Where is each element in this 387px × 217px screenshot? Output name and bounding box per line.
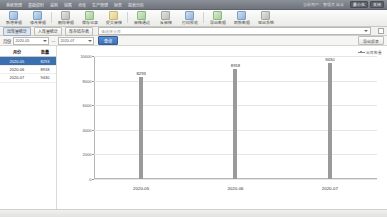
menu-item-4[interactable]: 仓库 xyxy=(75,2,89,8)
legend-label-0: 出库数量 xyxy=(366,50,382,55)
tab-outbound-stats[interactable]: 出库量统计 xyxy=(3,27,31,36)
toolbar-label-6: 反审核 xyxy=(160,21,172,25)
x-tick-label-2020-06: 2020-06 xyxy=(189,186,282,191)
cell-qty-1: 8918 xyxy=(34,65,56,73)
function-tab-row: 出库量统计 入库量统计 库存结存表 请选择仓库 xyxy=(0,27,387,36)
date-from-input[interactable]: 2020-05 xyxy=(13,37,49,45)
toolbar-button-save[interactable]: 保存记录 xyxy=(78,11,101,25)
gridline-0 xyxy=(94,179,377,180)
minimize-button[interactable]: 最小化 xyxy=(350,1,368,8)
toolbar-button-revoke[interactable]: 反审核 xyxy=(154,11,177,25)
date-range-separator: — xyxy=(51,38,56,43)
menu-item-2[interactable]: 采购 xyxy=(47,2,61,8)
print-icon xyxy=(185,11,194,20)
x-tick-label-2020-05: 2020-05 xyxy=(94,186,187,191)
bar-slot-2020-07: 9430 xyxy=(283,56,376,179)
save-icon xyxy=(85,11,94,20)
toolbar-button-print[interactable]: 打印预览 xyxy=(178,11,201,25)
toolbar-label-2: 删除单据 xyxy=(58,21,74,25)
chevron-down-icon-from xyxy=(43,40,47,42)
chevron-down-icon xyxy=(364,30,368,32)
toolbar-label-9: 刷新数据 xyxy=(234,21,250,25)
new-document-icon xyxy=(9,11,18,20)
revoke-icon xyxy=(161,11,170,20)
warehouse-select[interactable]: 请选择仓库 xyxy=(98,27,371,35)
toolbar-separator-3 xyxy=(203,12,204,23)
data-table-pane: 月份 数量 2020-05 8293 2020-06 8918 2020-07 xyxy=(0,46,57,209)
tab-inbound-stats[interactable]: 入库量统计 xyxy=(34,27,62,36)
monthly-quantity-table: 月份 数量 2020-05 8293 2020-06 8918 2020-07 xyxy=(0,48,56,83)
approve-icon xyxy=(137,11,146,20)
toolbar-button-refresh[interactable]: 刷新数据 xyxy=(230,11,253,25)
icon-toolbar: 新增单据 修改单据 删除单据 保存记录 提交审核 审核通过 反审核 xyxy=(0,10,387,27)
refresh-icon xyxy=(237,11,246,20)
settings-icon[interactable] xyxy=(378,28,384,34)
menu-item-3[interactable]: 销售 xyxy=(61,2,75,8)
month-filter-label: 月份 xyxy=(3,38,11,44)
content-area: 月份 数量 2020-05 8293 2020-06 8918 2020-07 xyxy=(0,46,387,209)
bar-value-label-2020-06: 8918 xyxy=(231,63,240,68)
exit-icon xyxy=(261,11,270,20)
toolbar-separator-2 xyxy=(127,12,128,23)
column-header-month[interactable]: 月份 xyxy=(0,48,34,57)
close-button[interactable]: 关闭 xyxy=(370,1,384,8)
date-to-input[interactable]: 2020-07 xyxy=(58,37,94,45)
menu-item-6[interactable]: 财务 xyxy=(111,2,125,8)
menu-item-5[interactable]: 生产管理 xyxy=(89,2,111,8)
bar-slot-2020-05: 8293 xyxy=(94,56,187,179)
menu-item-0[interactable]: 系统管理 xyxy=(3,2,25,8)
menu-item-1[interactable]: 基础资料 xyxy=(25,2,47,8)
table-row[interactable]: 2020-06 8918 xyxy=(0,65,56,73)
submit-icon xyxy=(109,11,118,20)
toolbar-label-7: 打印预览 xyxy=(182,21,198,25)
plot-area: 0200040006000800010000 829389189430 xyxy=(94,56,377,179)
toolbar-button-export[interactable]: 导出数据 xyxy=(206,11,229,25)
bar-chart: 出库数量 0200040006000800010000 829389189430… xyxy=(57,46,387,209)
delete-icon xyxy=(61,11,70,20)
warehouse-select-value: 请选择仓库 xyxy=(101,29,121,34)
chevron-down-icon-to xyxy=(88,40,92,42)
toolbar-label-10: 退出系统 xyxy=(258,21,274,25)
bar-2020-05[interactable]: 8293 xyxy=(139,77,143,179)
legend-marker-icon xyxy=(358,52,365,53)
toolbar-button-edit[interactable]: 修改单据 xyxy=(26,11,49,25)
menu-bar: 系统管理 基础资料 采购 销售 仓库 生产管理 财务 报表分析 当前用户：管理员… xyxy=(0,0,387,10)
application-window: 系统管理 基础资料 采购 销售 仓库 生产管理 财务 报表分析 当前用户：管理员… xyxy=(0,0,387,217)
cell-qty-0: 8293 xyxy=(34,57,56,65)
toolbar-label-4: 提交审核 xyxy=(106,21,122,25)
cell-month-2: 2020-07 xyxy=(0,74,34,82)
edit-icon xyxy=(33,11,42,20)
toolbar-label-8: 导出数据 xyxy=(210,21,226,25)
chart-legend: 出库数量 xyxy=(358,50,383,55)
toolbar-label-1: 修改单据 xyxy=(30,21,46,25)
toolbar-button-exit[interactable]: 退出系统 xyxy=(254,11,277,25)
toolbar-button-approve[interactable]: 审核通过 xyxy=(130,11,153,25)
column-header-quantity[interactable]: 数量 xyxy=(34,48,56,57)
bar-2020-06[interactable]: 8918 xyxy=(233,69,237,179)
toolbar-button-submit[interactable]: 提交审核 xyxy=(102,11,125,25)
query-button[interactable]: 查询 xyxy=(98,36,118,45)
table-row[interactable]: 2020-05 8293 xyxy=(0,57,56,65)
menu-item-7[interactable]: 报表分析 xyxy=(125,2,147,8)
tab-stock-balance[interactable]: 库存结存表 xyxy=(65,27,93,36)
cell-month-1: 2020-06 xyxy=(0,65,34,73)
table-row[interactable]: 2020-07 9430 xyxy=(0,74,56,82)
export-report-button[interactable]: 导出报表 xyxy=(358,36,384,45)
table-header-row: 月份 数量 xyxy=(0,48,56,57)
bar-value-label-2020-07: 9430 xyxy=(325,57,334,62)
toolbar-button-new-document[interactable]: 新增单据 xyxy=(2,11,25,25)
date-from-value: 2020-05 xyxy=(16,39,30,43)
status-bar xyxy=(0,209,387,217)
bar-value-label-2020-05: 8293 xyxy=(136,71,145,76)
cell-qty-2: 9430 xyxy=(34,74,56,82)
toolbar-separator-1 xyxy=(51,12,52,23)
bar-2020-07[interactable]: 9430 xyxy=(328,63,332,179)
bar-series: 829389189430 xyxy=(94,56,377,179)
toolbar-label-0: 新增单据 xyxy=(6,21,22,25)
toolbar-label-3: 保存记录 xyxy=(82,21,98,25)
current-user-label: 当前用户：管理员 站点 xyxy=(303,2,348,7)
toolbar-button-delete[interactable]: 删除单据 xyxy=(54,11,77,25)
toolbar-label-5: 审核通过 xyxy=(134,21,150,25)
date-to-value: 2020-07 xyxy=(61,39,75,43)
bar-slot-2020-06: 8918 xyxy=(189,56,282,179)
